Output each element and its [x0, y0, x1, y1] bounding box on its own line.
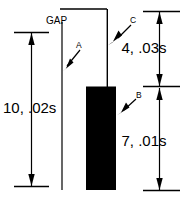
pulse-block — [86, 87, 116, 191]
left-dimension-arrow-up — [28, 33, 34, 45]
right-upper-arrow-down — [156, 74, 162, 86]
right-lower-arrow-up — [156, 88, 162, 100]
right-lower-arrow-down — [156, 178, 162, 190]
left-dimension-label: 10, .02s — [3, 99, 56, 116]
callout-c-label: C — [130, 15, 136, 25]
right-upper-dimension-label: 4, .03s — [121, 39, 166, 56]
gap-label: GAP — [46, 15, 67, 26]
right-lower-dimension-label: 7, .01s — [121, 132, 166, 149]
technical-diagram: 10, .02s 4, .03s 7, .01s A B C GAP — [0, 0, 186, 199]
diagram-canvas: 10, .02s 4, .03s 7, .01s A B C GAP — [0, 0, 186, 199]
callout-b-arrowhead — [117, 103, 130, 116]
right-upper-arrow-up — [156, 12, 162, 24]
left-dimension-arrow-down — [28, 174, 34, 186]
callout-b-label: B — [136, 90, 142, 100]
callout-c-arrowhead — [108, 31, 123, 46]
callout-a-label: A — [76, 40, 82, 50]
